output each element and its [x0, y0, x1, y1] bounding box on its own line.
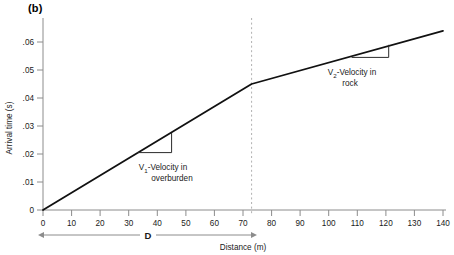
x-tick-label-14: 140: [436, 219, 450, 228]
svg-text:V1-Velocity in: V1-Velocity in: [139, 163, 188, 174]
x-tick-label-8: 80: [267, 219, 277, 228]
x-tick-label-5: 50: [181, 219, 191, 228]
v2-annotation: V2-Velocity in rock: [328, 68, 377, 88]
y-axis-title: Arrival time (s): [5, 101, 14, 154]
v1-text: -Velocity in: [148, 163, 188, 172]
x-tick-label-4: 40: [153, 219, 163, 228]
v2-text: -Velocity in: [337, 68, 377, 77]
x-axis: 0 10 20 30 40 50 60 70 80 90 100 110 120…: [41, 210, 451, 252]
travel-time-chart: 0 .01 .02 .03 .04 .05 .06 Arrival time (…: [0, 0, 454, 255]
x-tick-label-10: 100: [322, 219, 336, 228]
y-tick-label-6: .06: [23, 38, 35, 47]
x-tick-label-7: 70: [238, 219, 248, 228]
dimension-label-D: D: [145, 230, 152, 241]
x-tick-label-12: 120: [379, 219, 393, 228]
x-axis-title: Distance (m): [220, 243, 267, 252]
y-tick-label-0: 0: [29, 206, 34, 215]
y-tick-label-5: .05: [23, 66, 35, 75]
x-tick-label-0: 0: [41, 219, 46, 228]
y-axis: 0 .01 .02 .03 .04 .05 .06 Arrival time (…: [5, 18, 43, 215]
figure-panel-b: (b) 0 .01 .02 .03 .04 .05 .06 Arrival ti…: [0, 0, 454, 255]
v2-annotation-line2: rock: [342, 79, 358, 88]
y-tick-label-2: .02: [23, 150, 35, 159]
y-tick-label-1: .01: [23, 178, 35, 187]
x-tick-label-2: 20: [96, 219, 106, 228]
v1-annotation-line2: overburden: [151, 174, 193, 183]
panel-label: (b): [28, 2, 43, 14]
x-tick-label-6: 60: [210, 219, 220, 228]
x-tick-label-13: 130: [408, 219, 422, 228]
svg-text:V2-Velocity in: V2-Velocity in: [328, 68, 377, 79]
x-tick-label-9: 90: [296, 219, 306, 228]
crossover-distance-dimension: D: [44, 228, 251, 242]
y-tick-label-3: .03: [23, 122, 35, 131]
y-tick-label-4: .04: [23, 94, 35, 103]
x-tick-label-11: 110: [351, 219, 364, 228]
v1-annotation: V1-Velocity in overburden: [139, 163, 193, 183]
x-tick-label-3: 30: [124, 219, 134, 228]
x-tick-label-1: 10: [67, 219, 77, 228]
